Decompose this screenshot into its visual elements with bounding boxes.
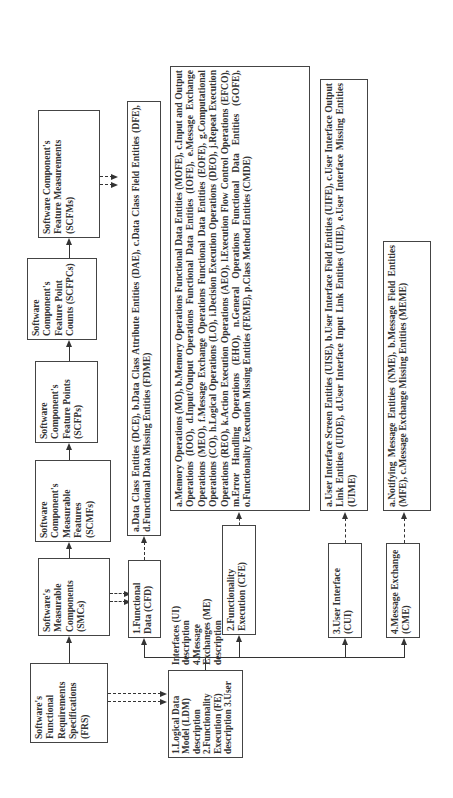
diagram-canvas: Software's Functional Requirements Speci… — [0, 0, 453, 798]
bus-line — [205, 658, 206, 670]
connector-smcs-scmfs — [69, 548, 70, 558]
dashed-link-frs-ldm — [108, 701, 161, 702]
connector-scmfs-scfps — [69, 449, 70, 460]
component-cui: 3.User Interface (CUI) — [328, 543, 362, 638]
arrow-head — [236, 635, 242, 642]
arrow-head — [111, 174, 118, 180]
arrow-head — [141, 536, 147, 543]
arrow-head — [66, 542, 72, 549]
bus-to-cme — [404, 644, 405, 658]
arrow-head — [342, 638, 348, 645]
connector-frs-smcs — [69, 642, 70, 663]
entities-cui: a.User Interface Screen Entities (UISE),… — [320, 79, 368, 511]
bus-to-cui — [345, 644, 346, 658]
link-cfd-entities — [144, 542, 145, 560]
bus-to-cfe — [239, 641, 240, 658]
arrow-head — [160, 699, 167, 705]
scmfs-box: Software Component's Measurable Features… — [35, 460, 111, 542]
dashed-link-frs-ldm — [108, 693, 161, 694]
smcs-box: Software's Measurable Components (SMCs) — [38, 558, 110, 636]
component-cfe: 2.Functionality Execution (CFE) — [222, 525, 256, 635]
arrow-head — [111, 182, 118, 188]
entities-cme: a.Notifying Message Entities (NME), b.Me… — [383, 241, 431, 511]
entities-cfe: a.Memory Operations (MO), b.Memory Opera… — [170, 66, 310, 511]
arrow-head — [342, 512, 348, 519]
link-cfe-entities — [239, 518, 240, 525]
bus-to-cfd — [144, 644, 145, 658]
entities-cfd: a.Data Class Entities (DCE), b.Data Clas… — [127, 101, 161, 536]
arrow-head — [401, 512, 407, 519]
arrow-head — [66, 238, 72, 245]
scfms-box: Software Component's Feature Measurement… — [38, 110, 100, 238]
component-cfd: 1.Functional Data (CFD) — [128, 560, 161, 638]
link-cme-entities — [404, 518, 405, 543]
descriptions-box: 1.Logical Data Model (LDM) description 2… — [168, 670, 243, 758]
arrow-head — [236, 512, 242, 519]
arrow-head — [66, 340, 72, 347]
component-cme: 4.Message Exchange (CME) — [386, 543, 420, 638]
arrow-head — [401, 638, 407, 645]
arrow-head — [141, 638, 147, 645]
frs-box: Software's Functional Requirements Speci… — [30, 663, 108, 743]
arrow-head — [66, 636, 72, 643]
link-cui-entities — [345, 518, 346, 543]
scfpcs-box: Software Component's Feature Point Count… — [27, 258, 97, 340]
bus-vertical — [144, 657, 405, 658]
scfps-box: Software Component's Feature Points (SCF… — [35, 361, 98, 443]
connector-scfpcs-scfms — [69, 244, 70, 258]
arrow-head — [66, 443, 72, 450]
connector-scfps-scfpcs — [69, 346, 70, 361]
arrow-head — [160, 691, 167, 697]
